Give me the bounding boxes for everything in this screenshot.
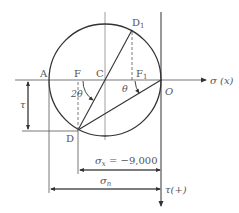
label-f1: F1 (136, 68, 147, 81)
two-theta-arc (83, 81, 93, 100)
label-o: O (165, 86, 173, 97)
label-two-theta: 2θ (70, 88, 83, 99)
label-d1: D1 (132, 17, 145, 30)
label-f: F (74, 68, 81, 79)
sigma-n-dimension-label: σn (100, 175, 112, 188)
sigma-axis-label: σ (x) (210, 75, 234, 86)
tau-dimension-label: τ (20, 99, 26, 110)
mohr-circle-diagram: A F C D1 F1 O D 2θ θ σ (x) τ(+) τ σx = −… (0, 0, 239, 213)
theta-arc (135, 81, 139, 93)
sigma-x-dimension-label: σx = −9,000 (95, 155, 158, 168)
label-theta: θ (122, 83, 128, 94)
tau-axis-label: τ(+) (165, 184, 187, 195)
label-a: A (39, 68, 48, 79)
label-d: D (66, 133, 74, 144)
chord-d-o (78, 80, 161, 130)
label-c: C (96, 68, 104, 79)
